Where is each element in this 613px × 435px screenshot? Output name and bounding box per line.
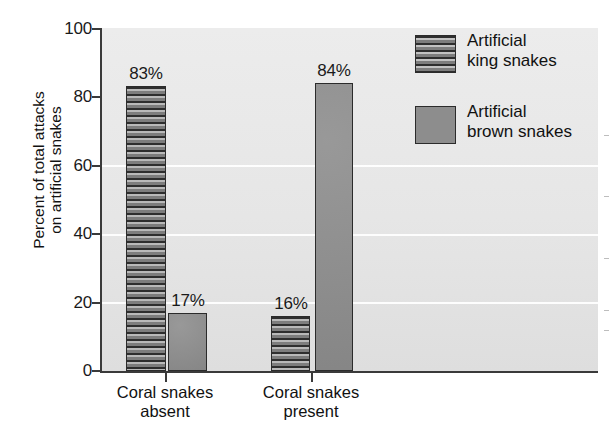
x-axis-line (100, 371, 598, 373)
bar-chart-figure: Percent of total attacks on artificial s… (0, 0, 613, 435)
bar-brown-snakes-absent (168, 313, 207, 371)
bar-value-label-83: 83% (106, 64, 186, 84)
legend-swatch-striped-icon (415, 35, 456, 73)
y-tick-label-40: 40 (46, 224, 92, 244)
y-tick-label-60: 60 (46, 156, 92, 176)
legend-item-brown-snakes: Artificial brown snakes (415, 106, 605, 152)
x-category-present-line2: present (216, 402, 406, 421)
bar-value-label-84: 84% (294, 61, 374, 81)
bar-value-label-17: 17% (148, 291, 228, 311)
bar-king-snakes-absent (126, 86, 166, 371)
x-tickmark-group-1 (165, 373, 167, 382)
legend-label-brown-snakes: Artificial brown snakes (467, 102, 572, 143)
y-tickmark-80 (92, 96, 101, 98)
x-category-present-line1: Coral snakes (216, 383, 406, 402)
y-tickmark-0 (92, 370, 101, 372)
y-axis-tick-labels: 100 80 60 40 20 0 (46, 0, 92, 435)
x-tickmark-group-2 (311, 373, 313, 382)
y-axis-title-line1: Percent of total attacks (30, 20, 47, 320)
legend-item-king-snakes: Artificial king snakes (415, 35, 605, 81)
y-tick-label-20: 20 (46, 293, 92, 313)
y-tickmark-100 (92, 28, 101, 30)
legend-king-snakes-line1: Artificial (467, 31, 557, 51)
y-tick-label-100: 100 (46, 19, 92, 39)
y-tickmark-20 (92, 302, 101, 304)
legend-king-snakes-line2: king snakes (467, 51, 557, 71)
legend-label-king-snakes: Artificial king snakes (467, 31, 557, 72)
y-tick-label-0: 0 (46, 361, 92, 381)
legend-brown-snakes-line1: Artificial (467, 102, 572, 122)
x-category-label-present: Coral snakes present (216, 383, 406, 422)
legend-brown-snakes-line2: brown snakes (467, 122, 572, 142)
bar-value-label-16: 16% (251, 294, 331, 314)
page-edge-artifacts (599, 0, 611, 435)
y-tick-label-80: 80 (46, 87, 92, 107)
y-tickmark-60 (92, 165, 101, 167)
bar-king-snakes-present (271, 316, 310, 371)
bar-brown-snakes-present (315, 83, 353, 371)
legend-swatch-solid-icon (415, 106, 456, 144)
y-tickmark-40 (92, 233, 101, 235)
y-axis-line (100, 28, 102, 373)
